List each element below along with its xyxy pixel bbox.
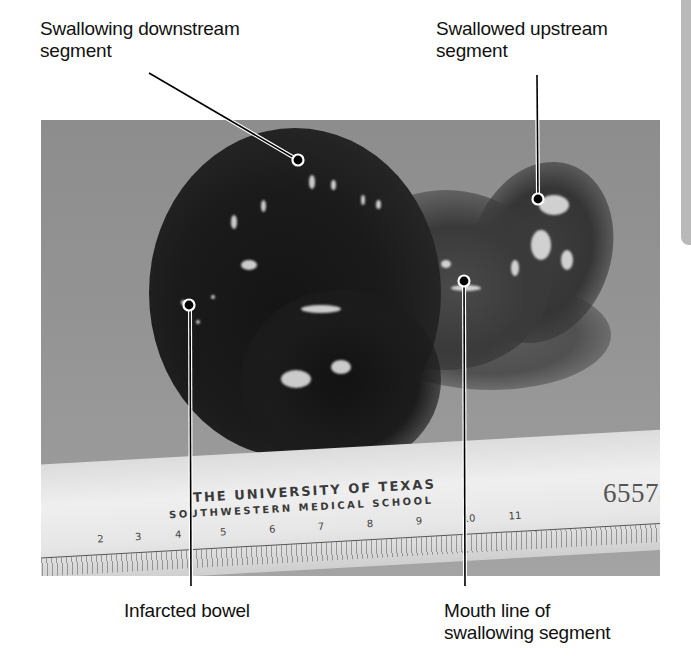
- ruler-number: 9: [415, 515, 422, 526]
- ruler: THE UNIVERSITY OF TEXAS SOUTHWESTERN MED…: [41, 429, 660, 576]
- label-infarcted-bowel: Infarcted bowel: [124, 600, 250, 622]
- specimen-number: 65578: [603, 478, 660, 509]
- side-tab: [681, 0, 691, 245]
- highlight: [451, 285, 481, 291]
- highlight: [361, 195, 365, 205]
- highlight: [281, 370, 311, 388]
- highlight: [301, 305, 341, 313]
- highlight: [196, 320, 200, 324]
- ruler-number: 10: [462, 512, 475, 524]
- highlight: [331, 180, 336, 190]
- highlight: [211, 295, 215, 299]
- label-mouth-line: Mouth line of swallowing segment: [444, 600, 610, 644]
- highlight: [511, 260, 519, 276]
- highlight: [441, 260, 451, 268]
- highlight: [309, 175, 315, 189]
- label-swallowing-downstream-segment: Swallowing downstream segment: [40, 18, 240, 62]
- highlight: [231, 215, 237, 229]
- ruler-number: 7: [318, 521, 325, 532]
- highlight: [331, 360, 351, 374]
- label-swallowed-upstream-segment: Swallowed upstream segment: [436, 18, 608, 62]
- ruler-number: 11: [508, 510, 521, 522]
- ruler-number: 4: [175, 529, 182, 540]
- ruler-number: 5: [220, 526, 227, 537]
- ruler-number: 2: [97, 533, 104, 544]
- highlight: [241, 260, 257, 270]
- specimen-photo: THE UNIVERSITY OF TEXAS SOUTHWESTERN MED…: [41, 120, 660, 576]
- ruler-number: 6: [269, 523, 276, 534]
- highlight: [376, 200, 381, 209]
- ruler-number: 3: [135, 531, 142, 542]
- ruler-number: 8: [367, 518, 374, 529]
- highlight: [261, 200, 266, 212]
- highlight: [561, 250, 573, 270]
- highlight: [539, 195, 569, 215]
- highlight: [181, 300, 186, 305]
- highlight: [531, 230, 551, 260]
